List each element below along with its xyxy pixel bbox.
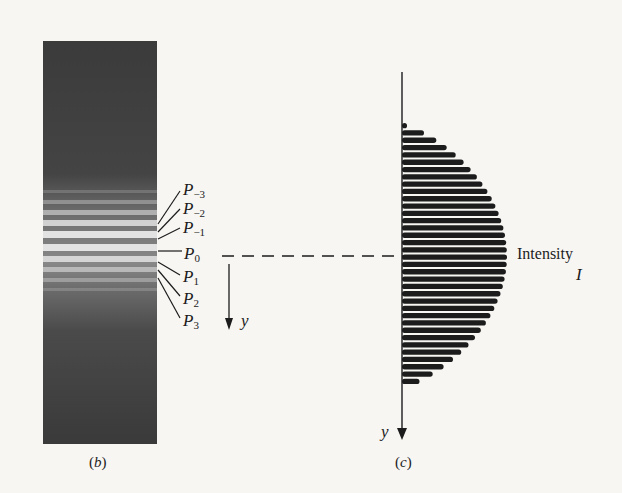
fringe-lobe xyxy=(402,284,503,289)
fringe-lobe xyxy=(402,152,456,157)
fringe-photo-strip xyxy=(43,41,157,444)
label-p-3: P3 xyxy=(183,312,199,331)
fringe-lobe xyxy=(402,130,424,135)
intensity-plot xyxy=(397,72,507,440)
fringe-lobe xyxy=(402,182,482,187)
fringe-lobe xyxy=(402,160,464,165)
fringe-lobe xyxy=(402,357,453,362)
caption-c: (c) xyxy=(395,455,412,470)
fringe-lobe xyxy=(402,233,505,238)
y-label-b: y xyxy=(241,312,249,329)
fringe-lobe xyxy=(402,203,495,208)
fringe-lobe xyxy=(402,211,499,216)
fringe-lobe xyxy=(402,196,492,201)
fringe-lobe xyxy=(402,218,501,223)
label-p-2: P2 xyxy=(183,290,199,309)
fringe-lobe xyxy=(402,364,444,369)
fringe-lobe xyxy=(402,189,487,194)
y-label-c: y xyxy=(381,423,389,440)
label-p-minus-2: P−2 xyxy=(183,200,205,219)
fringe-lobe xyxy=(402,269,506,274)
fringe-lobe xyxy=(402,379,420,384)
fringe-lobe xyxy=(402,320,486,325)
label-p-minus-1: P−1 xyxy=(183,219,205,238)
fringe-lobe xyxy=(402,328,481,333)
fringe-lobe xyxy=(402,371,433,376)
fringe-leader-lines xyxy=(158,191,182,318)
fringe-lobe xyxy=(402,298,498,303)
label-p-1: P1 xyxy=(183,268,199,287)
fringe-lobe xyxy=(402,255,507,260)
fringe-lobe xyxy=(402,225,503,230)
fringe-lobe xyxy=(402,335,475,340)
y-axis-arrowhead xyxy=(397,428,407,440)
label-p-minus-3: P−3 xyxy=(183,181,205,200)
fringe-lobe xyxy=(402,276,505,281)
fringe-lobe xyxy=(402,167,471,172)
y-arrow-b xyxy=(225,264,233,330)
fringe-lobe xyxy=(402,350,461,355)
caption-b: (b) xyxy=(89,455,107,470)
fringe-lobe xyxy=(402,174,477,179)
fringe-lobe xyxy=(402,342,469,347)
fringe-lobe xyxy=(402,291,501,296)
fringe-lobe xyxy=(402,313,490,318)
fringe-lobe xyxy=(402,247,507,252)
fringe-lobe xyxy=(402,306,494,311)
intensity-label: Intensity xyxy=(517,246,573,262)
fringe-lobe xyxy=(402,145,447,150)
label-p-0: P0 xyxy=(184,245,200,264)
fringe-lobe xyxy=(402,262,507,267)
fringe-lobe xyxy=(402,123,407,128)
fringe-lobe xyxy=(402,240,506,245)
intensity-symbol: I xyxy=(576,266,582,283)
fringe-lobe xyxy=(402,138,436,143)
